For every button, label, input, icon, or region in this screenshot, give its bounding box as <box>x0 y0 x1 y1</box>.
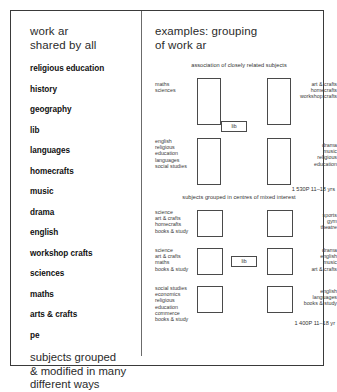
left-panel: work ar shared by all religious educatio… <box>11 11 141 365</box>
right-panel: examples: grouping of work ar associatio… <box>142 11 323 365</box>
subject-item: lib <box>30 126 141 135</box>
diagram-mixed-interest: lib science art & crafts homecrafts book… <box>155 206 337 328</box>
subject-box <box>197 138 221 185</box>
subject-item: history <box>30 85 141 94</box>
diagram-association: lib maths sciences english religious edu… <box>155 76 337 194</box>
diagram-top-caption: association of closely related subjects <box>155 62 323 68</box>
subject-item: homecrafts <box>30 167 141 176</box>
subject-item: pe <box>30 331 141 340</box>
subject-item: drama <box>30 208 141 217</box>
subject-box <box>197 286 223 313</box>
subject-item: workshop crafts <box>30 249 141 258</box>
subject-item: religious education <box>30 64 141 73</box>
subject-item: music <box>30 187 141 196</box>
subject-box <box>197 78 221 125</box>
library-box: lib <box>221 121 247 132</box>
subject-group-label: english religious education languages so… <box>155 138 195 169</box>
subject-box <box>197 248 223 275</box>
left-panel-heading: work ar shared by all <box>30 25 141 52</box>
subject-group-label: drama music religious education <box>281 142 337 167</box>
subject-item: sciences <box>30 269 141 278</box>
subject-item: geography <box>30 105 141 114</box>
left-panel-footnote: subjects grouped & modified in many diff… <box>30 351 142 392</box>
diagram-sheet: work ar shared by all religious educatio… <box>10 10 324 366</box>
subject-group-label: science art & crafts homecrafts books & … <box>155 209 195 234</box>
library-box: lib <box>231 256 257 267</box>
subject-group-label: drama english music art & crafts <box>281 247 337 272</box>
subject-item: languages <box>30 146 141 155</box>
diagram-stat: 1 400P 11–18 yr <box>294 320 335 326</box>
subject-group-label: maths sciences <box>155 81 195 93</box>
diagram-bottom-caption: subjects grouped in centres of mixed int… <box>155 194 323 200</box>
subject-box <box>197 210 223 237</box>
subject-group-label: science art & crafts maths books & study <box>155 247 195 272</box>
subject-group-label: english languages books & study <box>281 288 337 307</box>
subject-item: english <box>30 228 141 237</box>
subject-group-label: social studies economics religious educa… <box>155 285 195 322</box>
subject-item: maths <box>30 290 141 299</box>
subject-list: religious education history geography li… <box>30 64 141 340</box>
diagram-stat: 1 530P 11–18 yrs <box>292 186 335 192</box>
right-panel-heading: examples: grouping of work ar <box>155 25 323 52</box>
subject-group-label: sports gym theatre <box>281 212 337 231</box>
subject-group-label: art & crafts homecrafts workshop crafts <box>281 81 337 100</box>
subject-item: arts & crafts <box>30 310 141 319</box>
